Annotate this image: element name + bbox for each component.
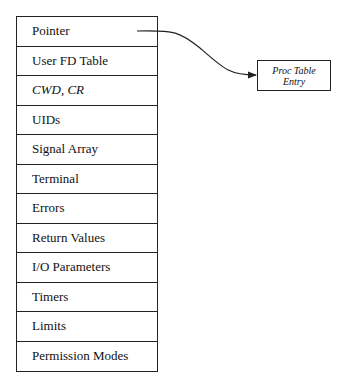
pointer-arrow-icon — [0, 0, 345, 391]
proc-table-entry-line1: Proc Table — [272, 65, 315, 76]
proc-table-entry-line2: Entry — [283, 76, 305, 87]
proc-table-entry-box: Proc Table Entry — [257, 60, 331, 91]
